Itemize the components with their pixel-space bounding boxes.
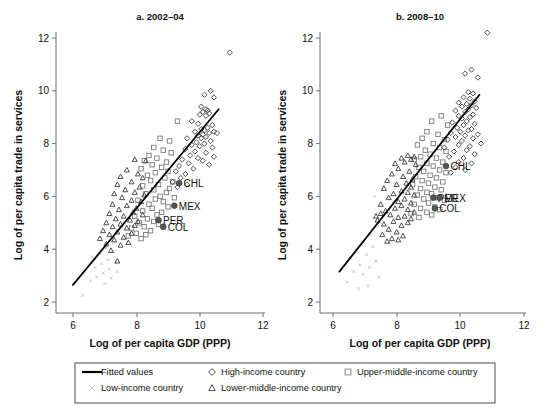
legend-item-low: Low-income country — [89, 383, 183, 393]
panel-b-y-axis-title: Log of per capita trade in services — [276, 90, 288, 261]
country-label-col: COL — [439, 203, 460, 214]
highlighted-country-point — [156, 217, 162, 223]
legend-label: Low-income country — [101, 383, 184, 393]
legend-label: High-income country — [221, 367, 306, 377]
y-tick-label: 8 — [307, 138, 313, 149]
country-label-chl: CHL — [451, 161, 471, 172]
highlighted-country-point — [443, 163, 449, 169]
y-tick-label: 6 — [307, 191, 313, 202]
panel-a-y-axis-title: Log of per capita trade in services — [12, 90, 24, 261]
highlighted-country-point — [160, 224, 166, 230]
highlighted-country-point — [176, 180, 182, 186]
legend-label: Upper-middle-income country — [357, 367, 478, 377]
highlighted-country-point — [171, 203, 177, 209]
panel-a-x-axis-title: Log of per capita GDP (PPP) — [90, 337, 231, 349]
legend-item-lower_middle: Lower-middle-income country — [209, 383, 342, 393]
highlighted-country-point — [432, 205, 438, 211]
y-tick-label: 10 — [302, 85, 314, 96]
y-tick-label: 8 — [43, 138, 49, 149]
x-tick-label: 6 — [330, 320, 336, 331]
y-tick-label: 2 — [307, 297, 313, 308]
country-label-mex: MEX — [179, 201, 201, 212]
figure-container: a. 2002–04 24681012681012CHLMEXPERCOL Lo… — [0, 0, 546, 414]
y-tick-label: 4 — [307, 244, 313, 255]
x-tick-label: 8 — [394, 320, 400, 331]
x-tick-label: 10 — [454, 320, 466, 331]
highlighted-country-point — [430, 195, 436, 201]
country-label-col: COL — [168, 222, 189, 233]
y-tick-label: 2 — [43, 297, 49, 308]
country-label-chl: CHL — [184, 178, 204, 189]
canvas-background — [0, 0, 546, 414]
x-tick-label: 12 — [518, 320, 530, 331]
legend-label: Lower-middle-income country — [221, 383, 342, 393]
x-tick-label: 12 — [257, 320, 269, 331]
y-tick-label: 6 — [43, 191, 49, 202]
legend-item-upper_middle: Upper-middle-income country — [345, 367, 478, 377]
x-tick-label: 8 — [134, 320, 140, 331]
panel-b-x-axis-title: Log of per capita GDP (PPP) — [350, 337, 491, 349]
panel-a-title: a. 2002–04 — [136, 11, 184, 22]
chart-svg: a. 2002–04 24681012681012CHLMEXPERCOL Lo… — [0, 0, 546, 414]
y-tick-label: 4 — [43, 244, 49, 255]
legend-item-high: High-income country — [209, 367, 306, 377]
y-tick-label: 12 — [302, 33, 314, 44]
panel-b-title: b. 2008–10 — [396, 11, 444, 22]
country-label-mex: MEX — [444, 193, 466, 204]
legend-label: Fitted values — [101, 367, 153, 377]
y-tick-label: 12 — [38, 33, 50, 44]
x-tick-label: 6 — [70, 320, 76, 331]
x-tick-label: 10 — [194, 320, 206, 331]
y-tick-label: 10 — [38, 85, 50, 96]
highlighted-country-point — [437, 195, 443, 201]
